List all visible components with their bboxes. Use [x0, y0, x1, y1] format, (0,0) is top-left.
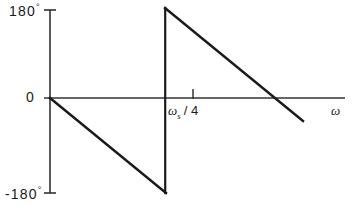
omega-symbol-icon: ω	[168, 103, 177, 118]
phase-plot-figure: 180° 0 -180° ωs/ 4 ω	[0, 0, 352, 207]
fraction-over-four: / 4	[181, 103, 198, 118]
y-axis-label-zero: 0	[26, 90, 34, 104]
y-axis-label-180-positive-text: 180	[9, 3, 36, 19]
phase-curve-segment-1	[50, 98, 166, 193]
x-axis-name-omega: ω	[331, 104, 340, 117]
degree-symbol-icon: °	[36, 2, 40, 12]
x-axis-tick-label-omega-s-over-4: ωs/ 4	[168, 104, 198, 121]
y-axis-label-180-positive: 180°	[9, 3, 40, 18]
y-axis-label-180-negative: -180°	[5, 186, 41, 201]
y-axis-label-180-negative-text: -180	[5, 186, 38, 202]
degree-symbol-icon: °	[38, 185, 42, 195]
